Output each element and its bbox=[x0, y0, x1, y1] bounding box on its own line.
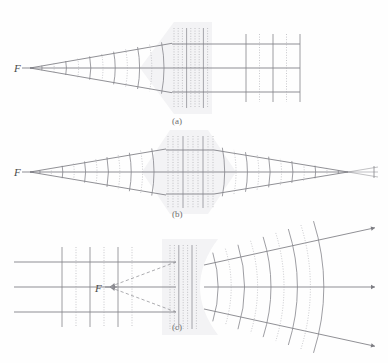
figure-canvas: F(a)F(b)F(c) bbox=[0, 0, 388, 363]
ray-arrowhead-c-2 bbox=[371, 343, 375, 347]
ray-arrowhead-c-1 bbox=[371, 285, 375, 289]
ray-arrowhead-c-0 bbox=[371, 226, 375, 230]
ray-outgoing-b-2 bbox=[214, 172, 348, 194]
virtual-ray-arrow-c-1 bbox=[111, 287, 115, 291]
focus-label-b: F bbox=[13, 166, 21, 178]
focus-label-a: F bbox=[13, 62, 21, 74]
focus-label-c: F bbox=[94, 282, 102, 294]
virtual-ray-arrow-c-0 bbox=[111, 283, 115, 287]
optics-figure: F(a)F(b)F(c) bbox=[0, 0, 388, 363]
ray-postfocus-b-0 bbox=[348, 167, 378, 172]
panel-label-c: (c) bbox=[172, 322, 182, 332]
ray-postfocus-b-2 bbox=[348, 172, 378, 177]
panel-label-a: (a) bbox=[172, 116, 182, 126]
panel-label-b: (b) bbox=[172, 209, 183, 219]
